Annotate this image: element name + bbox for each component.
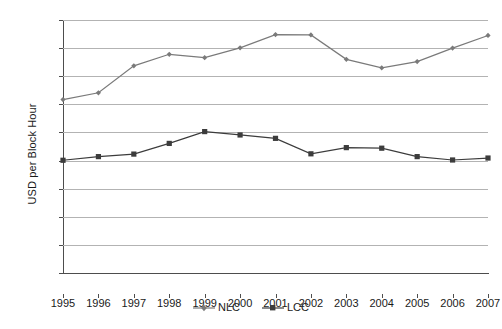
legend-entry-lcc[interactable]: LCC — [262, 302, 309, 313]
data-point-lcc — [167, 141, 172, 146]
data-point-lcc — [96, 154, 101, 159]
data-point-lcc — [202, 129, 207, 134]
line-chart: USD per Block Hour -10020030040050060070… — [0, 0, 502, 329]
x-axis-line — [63, 273, 489, 274]
y-axis-title: USD per Block Hour — [26, 69, 38, 239]
data-point-lcc — [379, 146, 384, 151]
series-line-nlc — [63, 35, 488, 100]
data-point-nlc — [237, 45, 242, 50]
data-point-nlc — [485, 33, 490, 38]
legend-marker-diamond-icon — [193, 303, 215, 313]
data-point-nlc — [202, 55, 207, 60]
legend-entry-nlc[interactable]: NLC — [193, 302, 240, 313]
data-point-lcc — [131, 151, 136, 156]
data-point-nlc — [167, 52, 172, 57]
data-point-nlc — [379, 65, 384, 70]
data-point-nlc — [60, 97, 65, 102]
data-point-lcc — [60, 158, 65, 163]
chart-legend: NLCLCC — [0, 302, 502, 313]
legend-label: NLC — [218, 302, 240, 313]
data-point-nlc — [450, 46, 455, 51]
data-point-lcc — [308, 151, 313, 156]
data-point-nlc — [415, 59, 420, 64]
legend-marker-square-icon — [262, 303, 284, 313]
data-point-lcc — [450, 157, 455, 162]
legend-label: LCC — [287, 302, 309, 313]
data-point-lcc — [344, 145, 349, 150]
data-point-lcc — [415, 154, 420, 159]
data-point-lcc — [485, 155, 490, 160]
y-tick-mark — [59, 273, 63, 274]
series-layer — [63, 20, 488, 273]
data-point-lcc — [237, 132, 242, 137]
data-point-lcc — [273, 136, 278, 141]
data-point-nlc — [273, 32, 278, 37]
